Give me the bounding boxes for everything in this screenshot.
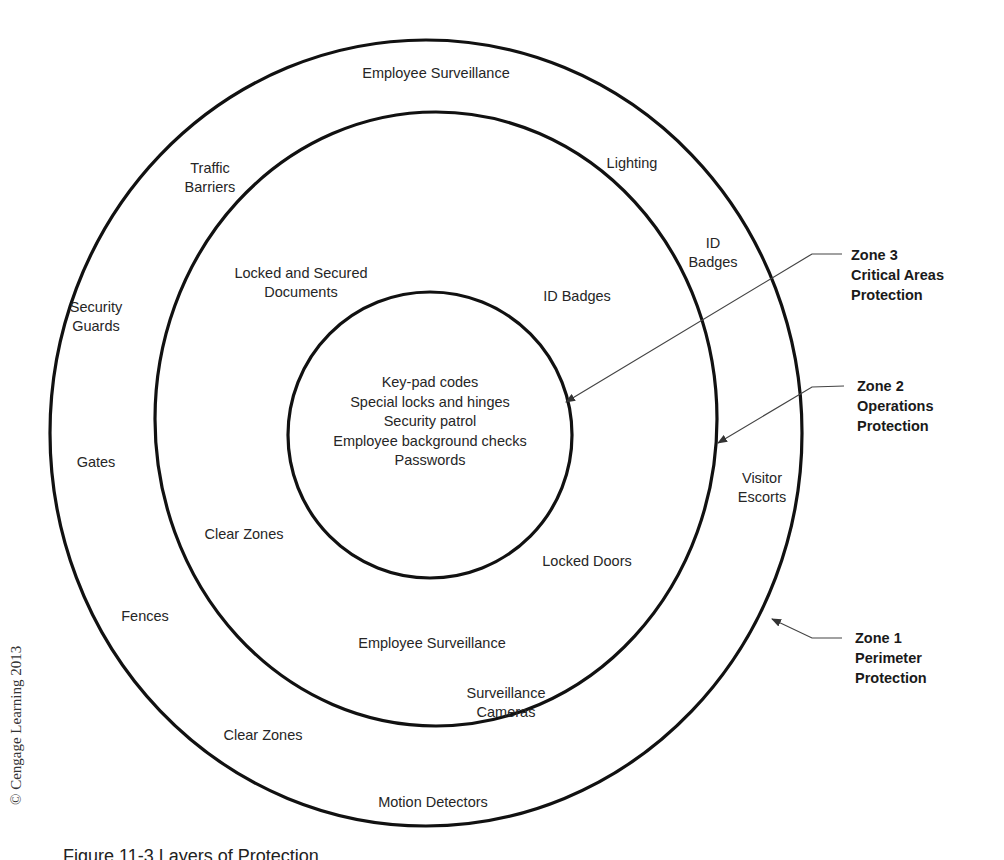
- label-lighting: Lighting: [607, 154, 658, 173]
- label-employee-surveillance-inner: Employee Surveillance: [358, 634, 506, 653]
- zone1-leader-arrow: [772, 619, 842, 638]
- zone3-item-list: Key-pad codes Special locks and hinges S…: [333, 373, 526, 471]
- label-fences: Fences: [121, 607, 169, 626]
- label-motion-detectors: Motion Detectors: [378, 793, 488, 812]
- label-gates: Gates: [77, 453, 116, 472]
- label-locked-doors: Locked Doors: [542, 552, 631, 571]
- label-security-guards: Security Guards: [70, 298, 122, 336]
- label-traffic-barriers: Traffic Barriers: [185, 159, 236, 197]
- label-visitor-escorts: Visitor Escorts: [738, 469, 786, 507]
- label-locked-secured-documents: Locked and Secured Documents: [234, 264, 367, 302]
- label-id-badges-inner: ID Badges: [543, 287, 611, 306]
- label-employee-surveillance-outer: Employee Surveillance: [362, 64, 510, 83]
- figure-caption: Figure 11-3 Layers of Protection: [63, 846, 319, 860]
- label-clear-zones-outer: Clear Zones: [224, 726, 303, 745]
- zone2-leader-arrow: [718, 386, 844, 443]
- label-id-badges-outer: ID Badges: [688, 234, 737, 272]
- callout-zone1: Zone 1 Perimeter Protection: [855, 628, 927, 688]
- label-surveillance-cameras: Surveillance Cameras: [467, 684, 546, 722]
- callout-zone2: Zone 2 Operations Protection: [857, 376, 934, 436]
- label-clear-zones-inner: Clear Zones: [205, 525, 284, 544]
- copyright-notice: © Cengage Learning 2013: [8, 646, 25, 805]
- callout-zone3: Zone 3 Critical Areas Protection: [851, 245, 944, 305]
